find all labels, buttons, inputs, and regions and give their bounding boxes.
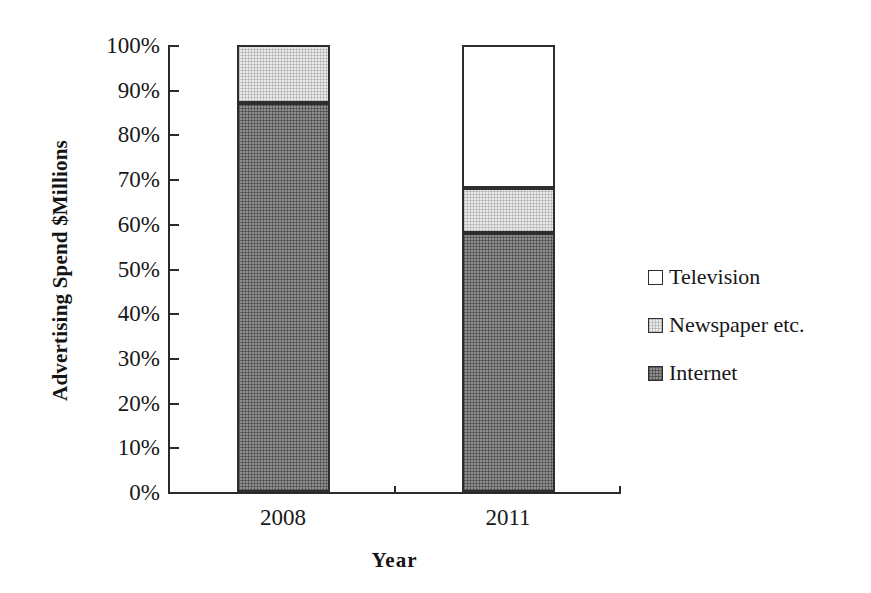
legend-label-newspaper: Newspaper etc.: [669, 314, 805, 336]
bar-2008: [237, 45, 330, 494]
y-tick-label-60: 60%: [60, 212, 160, 235]
y-axis-tick-80: [170, 134, 179, 136]
bar-2011: [462, 45, 555, 494]
x-axis-tick-mid: [394, 486, 396, 493]
y-tick-label-40: 40%: [60, 302, 160, 325]
bar-2011-segment-television: [462, 45, 555, 188]
y-tick-label-80: 80%: [60, 123, 160, 146]
y-axis-tick-20: [170, 403, 179, 405]
y-tick-label-100: 100%: [60, 34, 160, 57]
y-axis-tick-50: [170, 269, 179, 271]
television-swatch-icon: [648, 270, 663, 285]
y-axis-tick-labels: 100% 90% 80% 70% 60% 50% 40% 30% 20% 10%…: [60, 45, 160, 492]
newspaper-swatch-icon: [648, 318, 663, 333]
legend-label-internet: Internet: [669, 362, 737, 384]
y-axis-tick-70: [170, 179, 179, 181]
y-axis-tick-60: [170, 224, 179, 226]
y-axis-tick-10: [170, 447, 179, 449]
legend-item-internet[interactable]: Internet: [648, 362, 737, 384]
internet-swatch-icon: [648, 366, 663, 381]
x-tick-label-2008: 2008: [203, 505, 363, 531]
x-tick-label-2011: 2011: [428, 505, 588, 531]
legend-label-television: Television: [669, 266, 760, 288]
y-axis-tick-0: [170, 492, 179, 494]
bar-2008-segment-newspaper: [237, 45, 330, 103]
stacked-bar-chart: Advertising Spend $Millions 100% 90% 80%…: [0, 0, 871, 593]
bar-2011-segment-internet: [462, 233, 555, 492]
y-tick-label-0: 0%: [60, 481, 160, 504]
bar-2011-segment-newspaper: [462, 188, 555, 233]
y-axis-tick-90: [170, 90, 179, 92]
legend-item-newspaper[interactable]: Newspaper etc.: [648, 314, 805, 336]
y-tick-label-10: 10%: [60, 436, 160, 459]
legend-item-television[interactable]: Television: [648, 266, 760, 288]
bar-2008-segment-internet: [237, 103, 330, 492]
y-axis-tick-100: [170, 45, 179, 47]
y-tick-label-20: 20%: [60, 391, 160, 414]
y-tick-label-50: 50%: [60, 257, 160, 280]
y-tick-label-70: 70%: [60, 168, 160, 191]
x-axis-tick-right: [619, 486, 621, 493]
x-axis-title: Year: [168, 548, 621, 573]
y-tick-label-90: 90%: [60, 78, 160, 101]
y-axis-tick-30: [170, 358, 179, 360]
y-axis-tick-40: [170, 313, 179, 315]
y-tick-label-30: 30%: [60, 346, 160, 369]
